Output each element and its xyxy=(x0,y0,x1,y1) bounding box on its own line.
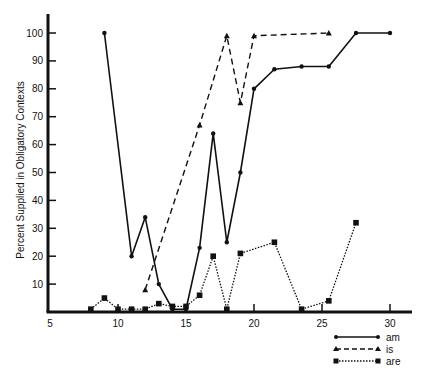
data-point-square-icon xyxy=(197,292,203,298)
y-axis-title: Percent Supplied in Obligatory Contexts xyxy=(15,81,26,258)
data-point-square-icon xyxy=(183,304,189,310)
x-tick-label: 5 xyxy=(47,318,53,329)
data-point-square-icon xyxy=(142,306,148,312)
legend: am is are xyxy=(333,332,401,367)
data-point-triangle-icon xyxy=(237,100,243,106)
data-point-square-icon xyxy=(88,306,94,312)
y-tick-label: 40 xyxy=(32,195,44,206)
data-point-square-icon xyxy=(238,251,244,257)
data-point-circle-icon xyxy=(143,215,147,219)
y-tick-label: 70 xyxy=(32,111,44,122)
legend-marker-square-icon xyxy=(334,359,339,364)
data-point-circle-icon xyxy=(388,31,392,35)
data-point-square-icon xyxy=(210,253,216,259)
data-point-square-icon xyxy=(272,239,278,245)
series-group xyxy=(88,30,392,312)
data-point-circle-icon xyxy=(157,282,161,286)
series-line-is xyxy=(145,33,329,290)
x-tick-label: 30 xyxy=(384,318,396,329)
data-point-circle-icon xyxy=(272,67,276,71)
data-point-circle-icon xyxy=(102,31,106,35)
data-point-square-icon xyxy=(115,306,121,312)
x-tick-label: 20 xyxy=(248,318,260,329)
data-point-square-icon xyxy=(326,298,332,304)
legend-item-are: are xyxy=(334,356,401,367)
y-axis-label: Percent Supplied in Obligatory Contexts xyxy=(15,81,26,258)
y-tick-label: 10 xyxy=(32,279,44,290)
series-line-are xyxy=(91,223,356,309)
x-tick-label: 15 xyxy=(180,318,192,329)
legend-marker-circle-icon xyxy=(376,335,380,339)
legend-item-am: am xyxy=(334,332,400,343)
data-point-square-icon xyxy=(102,295,108,301)
y-tick-label: 80 xyxy=(32,83,44,94)
x-tick-label: 25 xyxy=(316,318,328,329)
data-point-circle-icon xyxy=(197,246,201,250)
x-tick-label: 10 xyxy=(112,318,124,329)
data-point-square-icon xyxy=(129,306,135,312)
data-point-triangle-icon xyxy=(142,287,148,293)
legend-item-is: is xyxy=(333,344,393,355)
data-point-circle-icon xyxy=(354,31,358,35)
data-point-circle-icon xyxy=(299,64,303,68)
series-line-am xyxy=(104,33,390,309)
legend-marker-triangle-icon xyxy=(375,346,381,351)
y-tick-label: 90 xyxy=(32,55,44,66)
data-point-square-icon xyxy=(353,220,359,226)
data-point-square-icon xyxy=(170,304,176,310)
data-point-square-icon xyxy=(299,306,305,312)
y-tick-label: 20 xyxy=(32,251,44,262)
data-point-circle-icon xyxy=(327,64,331,68)
data-point-circle-icon xyxy=(211,131,215,135)
y-tick-label: 60 xyxy=(32,139,44,150)
data-point-circle-icon xyxy=(252,87,256,91)
y-tick-label: 100 xyxy=(26,28,43,39)
data-point-triangle-icon xyxy=(197,122,203,128)
line-chart: 10203040506070809010051015202530 Percent… xyxy=(0,0,424,375)
series-is xyxy=(142,30,332,292)
legend-marker-circle-icon xyxy=(334,335,338,339)
data-point-circle-icon xyxy=(129,254,133,258)
legend-label: is xyxy=(386,344,393,355)
legend-label: am xyxy=(386,332,400,343)
data-point-triangle-icon xyxy=(326,30,332,36)
series-am xyxy=(102,31,392,312)
data-point-square-icon xyxy=(156,301,162,307)
legend-label: are xyxy=(386,356,401,367)
data-point-square-icon xyxy=(224,306,230,312)
data-point-triangle-icon xyxy=(224,33,230,39)
y-tick-label: 30 xyxy=(32,223,44,234)
data-point-circle-icon xyxy=(238,170,242,174)
y-tick-label: 50 xyxy=(32,167,44,178)
data-point-circle-icon xyxy=(225,240,229,244)
legend-marker-square-icon xyxy=(376,359,381,364)
